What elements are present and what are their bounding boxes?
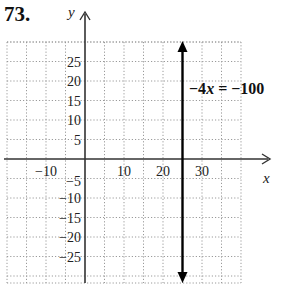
y-tick-label: −25	[59, 250, 81, 265]
x-tick-label: −10	[35, 164, 57, 179]
y-tick-label: 10	[67, 113, 81, 128]
y-tick-label: 20	[67, 74, 81, 89]
y-tick-label: −20	[59, 230, 81, 245]
x-tick-label: 30	[195, 164, 209, 179]
graph-line	[178, 41, 188, 283]
y-tick-label: 15	[67, 94, 81, 109]
arrow-down-icon	[178, 272, 188, 283]
y-axis-label: y	[66, 4, 75, 20]
y-tick-label: −15	[59, 211, 81, 226]
grid-lines	[7, 42, 241, 283]
y-tick-label: 5	[74, 133, 81, 148]
coordinate-plane: −10102030252015105−5−10−15−20−25 x y −4x…	[0, 0, 290, 290]
x-axis-label: x	[262, 170, 270, 186]
x-tick-label: 10	[117, 164, 131, 179]
y-tick-label: −10	[59, 191, 81, 206]
y-tick-label: −5	[66, 174, 81, 189]
y-tick-label: 25	[67, 55, 81, 70]
equation-label: −4x = −100	[189, 80, 264, 97]
x-tick-label: 20	[156, 164, 170, 179]
arrow-up-icon	[178, 41, 188, 52]
axes	[4, 12, 270, 283]
